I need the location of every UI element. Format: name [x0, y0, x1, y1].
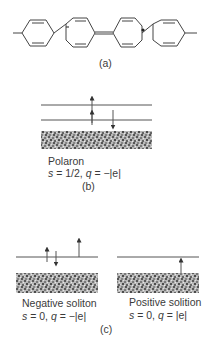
negative-soliton-formula: s = 0, q = −|e| — [22, 310, 86, 322]
valence-band-c-right — [117, 273, 199, 293]
polaron-diagram — [41, 98, 152, 127]
radical-dot-icon — [141, 28, 144, 31]
negative-soliton-title: Negative soliton — [22, 297, 97, 309]
valence-band-b — [41, 131, 152, 149]
valence-band-c-left — [16, 273, 98, 293]
positive-soliton-diagram — [117, 257, 199, 274]
polaron-formula: s = 1/2, q = −|e| — [48, 167, 121, 179]
polaron-title: Polaron — [48, 155, 84, 167]
positive-soliton-title: Positive solition — [129, 296, 201, 308]
molecule-structure — [13, 18, 197, 47]
caption-b: (b) — [82, 180, 95, 192]
caption-c: (c) — [100, 323, 112, 335]
negative-soliton-diagram — [16, 240, 98, 264]
caption-a: (a) — [99, 57, 112, 69]
positive-soliton-formula: s = 0, q = |e| — [129, 309, 187, 321]
